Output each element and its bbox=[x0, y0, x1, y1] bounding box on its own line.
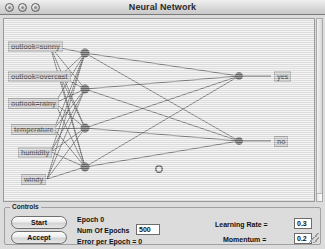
learning-rate-label: Learning Rate = bbox=[215, 220, 268, 229]
momentum-label: Momentum = bbox=[223, 235, 266, 244]
vertical-scrollbar[interactable] bbox=[316, 18, 323, 202]
network-canvas[interactable]: outlook=sunny outlook=overcast outlook=r… bbox=[3, 18, 315, 202]
input-label-outlook-overcast[interactable]: outlook=overcast bbox=[8, 71, 71, 82]
window-body: outlook=sunny outlook=overcast outlook=r… bbox=[0, 15, 325, 249]
neural-network-window: Neural Network outlook=sunny outlook=ove… bbox=[0, 0, 325, 249]
learning-rate-input[interactable]: 0.3 bbox=[294, 218, 312, 229]
epoch-status: Epoch 0 bbox=[77, 215, 104, 224]
controls-group-title: Controls bbox=[10, 203, 41, 210]
input-label-humidity[interactable]: humidity bbox=[18, 147, 52, 158]
input-label-outlook-sunny[interactable]: outlook=sunny bbox=[8, 41, 63, 52]
output-label-no[interactable]: no bbox=[274, 136, 288, 147]
num-epochs-input[interactable]: 500 bbox=[136, 224, 160, 235]
accept-button[interactable]: Accept bbox=[11, 231, 67, 244]
num-epochs-label: Num Of Epochs bbox=[77, 226, 130, 235]
title-bar: Neural Network bbox=[0, 0, 325, 15]
input-label-temperature[interactable]: temperature bbox=[11, 124, 56, 135]
output-label-yes[interactable]: yes bbox=[274, 71, 291, 82]
controls-panel: Controls Start Accept Epoch 0 Num Of Epo… bbox=[4, 207, 321, 245]
resize-grip[interactable] bbox=[309, 233, 319, 243]
input-label-outlook-rainy[interactable]: outlook=rainy bbox=[8, 98, 59, 109]
start-button[interactable]: Start bbox=[11, 216, 67, 229]
window-title: Neural Network bbox=[0, 0, 325, 15]
input-label-windy[interactable]: windy bbox=[21, 174, 46, 185]
error-status: Error per Epoch = 0 bbox=[77, 237, 142, 246]
vertical-scrollbar-thumb[interactable] bbox=[317, 19, 322, 194]
